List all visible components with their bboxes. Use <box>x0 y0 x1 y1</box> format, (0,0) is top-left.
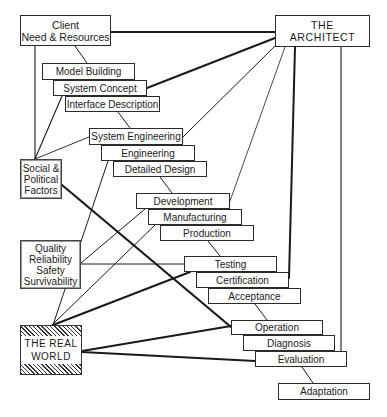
stage-acceptance: Acceptance <box>208 288 301 304</box>
architect-development-link <box>230 47 285 201</box>
architect-concept-link <box>147 38 275 88</box>
diagnosis-label: Diagnosis <box>267 338 311 349</box>
quality-label-line1: Quality <box>24 243 77 254</box>
client-label-line2: Need & Resources <box>21 31 109 43</box>
design-development-link <box>160 177 172 193</box>
stage-engineering: Engineering <box>101 145 195 161</box>
model-building-label: Model Building <box>56 66 122 77</box>
acceptance-operation-link <box>255 304 267 320</box>
real-world-box: THE REAL WORLD <box>20 325 82 375</box>
stage-diagnosis: Diagnosis <box>243 335 335 351</box>
social-label-line1: Social & <box>23 163 60 174</box>
manufacturing-label: Manufacturing <box>163 212 226 223</box>
detailed-design-label: Detailed Design <box>125 164 196 175</box>
client-label-line1: Client <box>21 19 109 31</box>
engineering-label: Engineering <box>121 148 174 159</box>
stage-production: Production <box>160 225 254 241</box>
stage-interface-description: Interface Description <box>65 96 160 112</box>
quality-label-line2: Reliability <box>24 254 77 265</box>
client-box: Client Need & Resources <box>20 15 111 46</box>
social-label-line3: Factors <box>23 185 60 196</box>
architect-sysengineering-link <box>183 46 275 137</box>
social-label-line2: Political <box>23 174 60 185</box>
adaptation-label: Adaptation <box>300 386 348 397</box>
real-world-label-line1: THE REAL <box>23 337 80 350</box>
stage-adaptation: Adaptation <box>278 383 370 400</box>
stage-development: Development <box>136 193 230 209</box>
evaluation-label: Evaluation <box>278 354 325 365</box>
quality-development-link <box>81 209 145 263</box>
realworld-evaluation-link <box>82 352 255 361</box>
architect-label-line1: THE <box>290 19 355 31</box>
production-testing-link <box>208 241 220 256</box>
interface-description-label: Interface Description <box>67 99 159 110</box>
production-label: Production <box>183 228 231 239</box>
realworld-operation-link <box>82 326 231 351</box>
quality-label-line4: Survivability <box>24 276 77 287</box>
architecture-process-diagram: Client Need & Resources THE ARCHITECT Mo… <box>0 0 387 417</box>
certification-label: Certification <box>216 275 269 286</box>
system-engineering-label: System Engineering <box>91 131 181 142</box>
architect-label-line2: ARCHITECT <box>290 31 355 43</box>
stage-testing: Testing <box>184 256 277 272</box>
operation-label: Operation <box>255 322 299 333</box>
system-concept-label: System Concept <box>63 83 136 94</box>
interface-sysengineering-link <box>118 112 130 128</box>
acceptance-label: Acceptance <box>228 291 280 302</box>
stage-model-building: Model Building <box>42 63 135 80</box>
stage-system-engineering: System Engineering <box>89 128 183 145</box>
quality-reliability-box: Quality Reliability Safety Survivability <box>20 240 81 289</box>
architect-certification-link <box>289 47 295 278</box>
real-world-label-line2: WORLD <box>23 350 80 363</box>
stage-evaluation: Evaluation <box>255 351 347 367</box>
stage-system-concept: System Concept <box>53 80 147 96</box>
client-modelbuilding-link <box>75 46 87 63</box>
architect-box: THE ARCHITECT <box>275 15 370 47</box>
evaluation-adaptation-link <box>302 367 313 383</box>
quality-label-line3: Safety <box>24 265 77 276</box>
development-label: Development <box>154 196 213 207</box>
social-political-factors-box: Social & Political Factors <box>20 159 62 199</box>
stage-manufacturing: Manufacturing <box>148 209 242 225</box>
stage-certification: Certification <box>196 272 289 288</box>
testing-label: Testing <box>215 259 247 270</box>
stage-operation: Operation <box>231 320 323 335</box>
stage-detailed-design: Detailed Design <box>113 161 207 177</box>
